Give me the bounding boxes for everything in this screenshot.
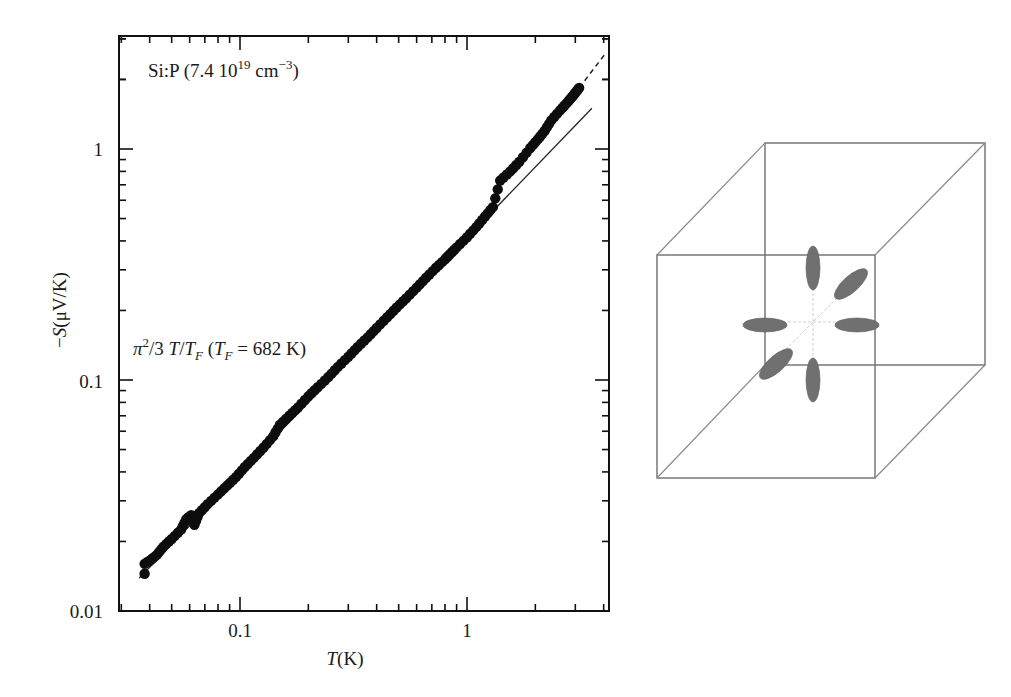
x-axis-ticks-top bbox=[121, 36, 603, 50]
data-point bbox=[488, 202, 498, 212]
y-axis-ticks-left bbox=[119, 39, 133, 611]
x-axis-label: T(K) bbox=[327, 648, 364, 670]
ellipsoid-top bbox=[806, 246, 820, 290]
sample-annotation: Si:P (7.4 1019 cm−3) bbox=[148, 57, 299, 82]
x-tick-label-1: 1 bbox=[462, 620, 472, 641]
y-tick-label-0.1: 0.1 bbox=[79, 371, 103, 392]
data-point bbox=[574, 83, 584, 93]
data-points bbox=[139, 83, 584, 579]
ellipsoid-right bbox=[835, 318, 879, 332]
ellipsoid-left bbox=[743, 318, 787, 332]
fit-annotation: π2/3 T/TF (TF = 682 K) bbox=[133, 335, 306, 363]
cube-diagram bbox=[657, 143, 985, 478]
ellipsoid-bottom bbox=[806, 358, 820, 402]
data-point bbox=[490, 193, 500, 203]
data-point bbox=[139, 569, 149, 579]
y-axis-ticks-right bbox=[595, 39, 609, 611]
data-point bbox=[493, 184, 503, 194]
extrapolation-dashed-line bbox=[579, 54, 605, 88]
cube-connecting-edges bbox=[657, 143, 985, 478]
x-tick-label-0.1: 0.1 bbox=[228, 620, 252, 641]
y-tick-label-0.01: 0.01 bbox=[70, 601, 103, 622]
figure: 1 0.1 0.01 0.1 1 T(K) −S(μV/K) Si:P (7.4… bbox=[0, 0, 1011, 697]
x-axis-ticks-bottom bbox=[121, 597, 603, 611]
ellipsoid-back-diagonal bbox=[830, 264, 872, 304]
thermopower-plot: 1 0.1 0.01 0.1 1 T(K) −S(μV/K) Si:P (7.4… bbox=[49, 36, 609, 670]
y-axis-label: −S(μV/K) bbox=[49, 272, 71, 348]
ellipsoid-front-diagonal bbox=[755, 344, 797, 384]
y-tick-label-1: 1 bbox=[94, 139, 104, 160]
